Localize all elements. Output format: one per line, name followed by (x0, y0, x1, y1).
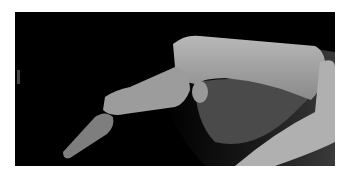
sesamoid-bone (192, 81, 208, 103)
xray-image (15, 12, 335, 166)
xray-illustration (15, 12, 335, 166)
film-marker (17, 70, 20, 84)
